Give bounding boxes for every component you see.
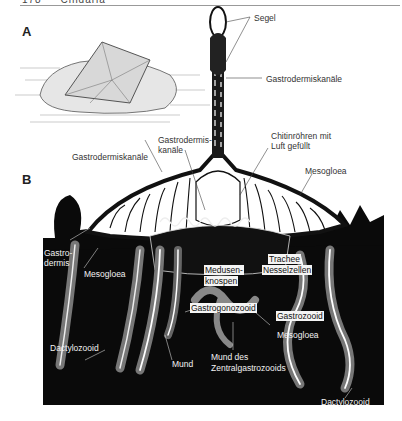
label-gastrodermis-kanaele-l1: Gastrodermis- (158, 135, 212, 145)
label-mund: Mund (172, 359, 193, 369)
panel-letter-b: B (22, 172, 31, 187)
panel-a-drawing (15, 42, 210, 122)
label-mesogloea-right: Mesogloea (277, 330, 319, 340)
label-dactylozooid-right: Dactylozooid (321, 397, 370, 407)
label-gastrogonozooid: Gastrogonozooid (190, 303, 257, 313)
label-nesselzellen: Nesselzellen (262, 265, 312, 275)
label-trachee: Trachee (268, 254, 301, 264)
label-chitinroehren-l2: Luft gefüllt (271, 141, 310, 151)
label-medusenknospen-l1: Medusen- (204, 265, 244, 275)
label-medusenknospen-l2: knospen (204, 276, 238, 286)
label-gastrodermis-l1: Gastro- (44, 248, 72, 258)
label-mund-des-l1: Mund des (211, 352, 248, 362)
label-mund-des-l2: Zentralgastrozooids (211, 363, 286, 373)
label-dactylozooid-left: Dactylozooid (50, 343, 99, 353)
label-gastrozooid: Gastrozooid (276, 311, 324, 321)
label-gastrodermis-l2: dermis (44, 258, 70, 268)
label-mesogloea-left: Mesogloea (84, 269, 126, 279)
label-chitinroehren-l1: Chitinröhren mit (271, 131, 331, 141)
label-mesogloea-top: Mesogloea (305, 166, 347, 176)
label-gastrodermiskanaele-left: Gastrodermiskanäle (72, 152, 148, 162)
label-gastrodermiskanaele-top: Gastrodermiskanäle (266, 74, 342, 84)
label-segel: Segel (254, 13, 276, 23)
panel-letter-a: A (22, 24, 31, 39)
illustration (0, 0, 402, 421)
label-gastrodermis-kanaele-l2: kanäle (158, 145, 183, 155)
